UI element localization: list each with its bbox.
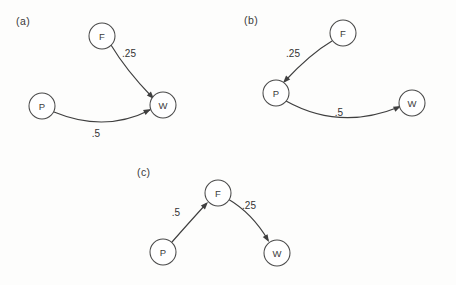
node-label-F: F	[99, 31, 105, 42]
node-label-F: F	[215, 188, 221, 199]
node-label-P: P	[39, 101, 45, 112]
diagram-canvas: (a).25.5FPW(b).25.5FPW(c).5.25FPW	[0, 0, 456, 285]
node-label-W: W	[159, 100, 168, 111]
edge-weight-label: .25	[286, 48, 300, 59]
node-label-W: W	[273, 248, 282, 259]
node-label-F: F	[340, 28, 346, 39]
diagram-panel-b: (b).25.5FPW	[244, 14, 425, 118]
panel-caption: (c)	[137, 166, 150, 178]
diagram-panel-a: (a).25.5FPW	[16, 15, 176, 139]
edge-weight-label: .25	[242, 200, 256, 211]
figure-container: (a).25.5FPW(b).25.5FPW(c).5.25FPW	[0, 0, 456, 285]
panel-caption: (b)	[244, 14, 258, 26]
diagram-panel-c: (c).5.25FPW	[137, 166, 290, 266]
edge-weight-label: .5	[172, 207, 181, 218]
node-label-W: W	[408, 98, 417, 109]
edge-weight-label: .25	[122, 48, 136, 59]
edge-weight-label: .5	[92, 128, 101, 139]
panel-caption: (a)	[16, 15, 30, 27]
edge-P-to-W	[54, 110, 150, 122]
node-label-P: P	[160, 247, 166, 258]
edge-weight-label: .5	[335, 107, 344, 118]
node-label-P: P	[273, 88, 279, 99]
